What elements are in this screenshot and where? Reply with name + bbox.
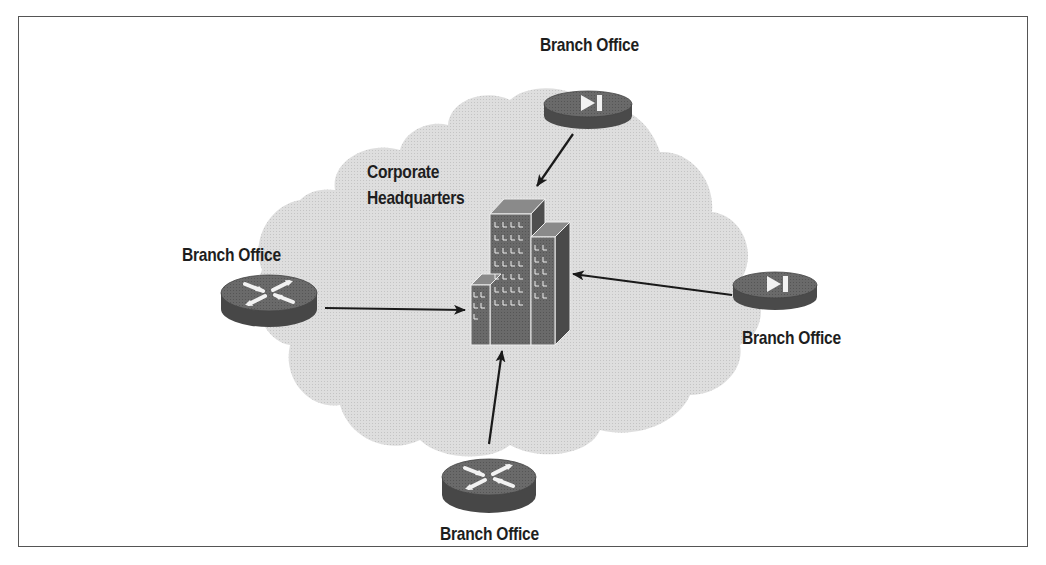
branch-office-label-bottom: Branch Office <box>440 523 539 545</box>
branch-office-label-left: Branch Office <box>182 244 281 266</box>
router-icon <box>442 459 536 513</box>
branch-office-label-top: Branch Office <box>540 34 639 56</box>
hq-label-line1: Corporate <box>367 161 439 183</box>
router-icon <box>221 275 317 327</box>
vpn-concentrator-icon <box>544 91 632 129</box>
network-diagram <box>0 0 1046 565</box>
hq-label-line2: Headquarters <box>367 187 464 209</box>
vpn-concentrator-icon <box>733 272 817 310</box>
branch-office-label-right: Branch Office <box>742 327 841 349</box>
